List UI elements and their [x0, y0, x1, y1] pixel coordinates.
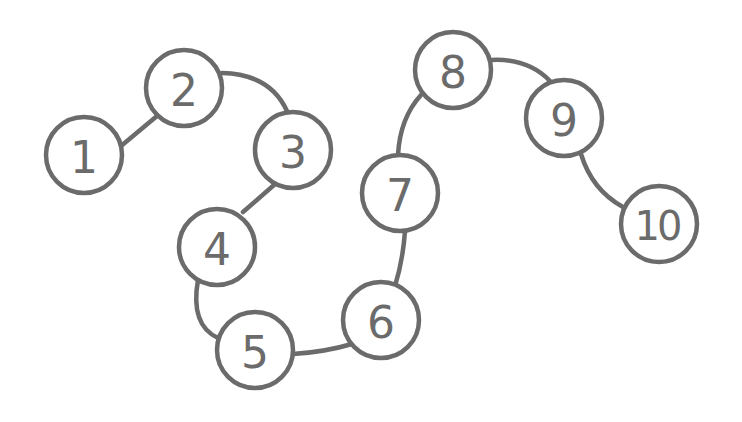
node-5: 5 — [217, 312, 293, 388]
node-1: 1 — [46, 117, 122, 193]
edge-7-8 — [398, 95, 421, 155]
node-10: 10 — [621, 186, 697, 262]
numbered-path-diagram: 1 2 3 4 5 6 7 8 9 10 — [0, 0, 742, 422]
node-label: 3 — [279, 127, 307, 178]
node-8: 8 — [415, 32, 491, 108]
edge-1-2 — [121, 116, 157, 146]
edge-3-4 — [243, 185, 274, 212]
node-label: 1 — [70, 132, 98, 183]
node-label: 5 — [241, 327, 269, 378]
node-label: 10 — [635, 203, 680, 249]
node-3: 3 — [255, 112, 331, 188]
node-label: 6 — [367, 297, 395, 348]
node-label: 9 — [550, 95, 578, 146]
edge-9-10 — [581, 154, 623, 207]
edge-2-3 — [222, 73, 287, 111]
node-9: 9 — [526, 80, 602, 156]
edge-6-7 — [395, 231, 405, 286]
node-label: 8 — [439, 47, 467, 98]
edge-4-5 — [196, 280, 218, 338]
node-7: 7 — [362, 155, 438, 231]
node-label: 2 — [170, 65, 198, 116]
edge-8-9 — [491, 60, 550, 81]
node-4: 4 — [179, 209, 255, 285]
node-2: 2 — [146, 50, 222, 126]
edge-5-6 — [293, 344, 352, 354]
node-label: 7 — [386, 170, 414, 221]
node-label: 4 — [203, 224, 231, 275]
node-6: 6 — [343, 282, 419, 358]
